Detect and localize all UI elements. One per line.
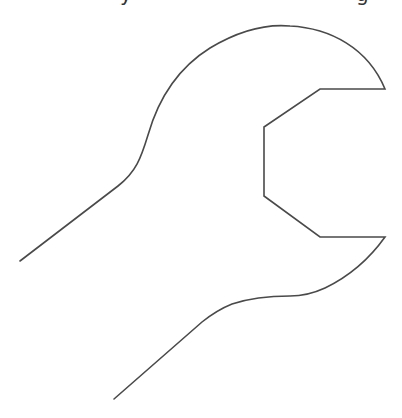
wrench-icon [0, 0, 402, 418]
wrench-figure [0, 0, 402, 418]
wrench-outline [20, 26, 385, 399]
